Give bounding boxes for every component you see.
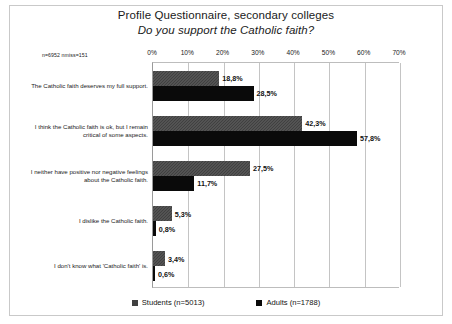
bar-adults: 0,6% — [153, 266, 155, 281]
bar-group: I don't know what 'Catholic faith' is.3,… — [153, 244, 399, 289]
bar-group: The Catholic faith deserves my full supp… — [153, 63, 399, 108]
bar-value-label: 57,8% — [360, 134, 380, 143]
category-label: I neither have positive nor negative fee… — [30, 168, 153, 184]
bar-group: I dislike the Catholic faith.5,3%0,8% — [153, 199, 399, 244]
x-axis-tick-30pct: 30% — [251, 49, 264, 56]
bar-value-label: 27,5% — [253, 164, 273, 173]
bar-group: I think the Catholic faith is ok, but I … — [153, 108, 399, 153]
bar-value-label: 18,8% — [222, 74, 242, 83]
bar-value-label: 5,3% — [175, 209, 191, 218]
chart-title: Profile Questionnaire, secondary college… — [0, 8, 452, 38]
bar-group: I neither have positive nor negative fee… — [153, 153, 399, 198]
x-axis-tick-0pct: 0% — [147, 49, 157, 56]
category-label: The Catholic faith deserves my full supp… — [30, 81, 153, 89]
x-axis-tick-70pct: 70% — [392, 49, 405, 56]
bar-value-label: 0,6% — [158, 269, 174, 278]
bar-value-label: 11,7% — [197, 179, 217, 188]
category-label: I don't know what 'Catholic faith' is. — [30, 262, 153, 270]
x-axis-tick-20pct: 20% — [216, 49, 229, 56]
legend-swatch-icon — [256, 300, 262, 306]
bar-value-label: 3,4% — [168, 254, 184, 263]
x-axis-tick-10pct: 10% — [181, 49, 194, 56]
bar-adults: 57,8% — [153, 131, 357, 146]
plot-area: The Catholic faith deserves my full supp… — [152, 62, 399, 288]
bar-adults: 11,7% — [153, 176, 194, 191]
chart-container: Profile Questionnaire, secondary college… — [0, 0, 452, 324]
chart-title-line1: Profile Questionnaire, secondary college… — [0, 8, 452, 23]
chart-legend: Students (n=5013)Adults (n=1788) — [0, 298, 452, 307]
legend-swatch-icon — [132, 300, 138, 306]
category-label: I think the Catholic faith is ok, but I … — [30, 123, 153, 139]
x-axis-tick-50pct: 50% — [322, 49, 335, 56]
legend-item: Adults (n=1788) — [256, 298, 320, 307]
bar-value-label: 0,8% — [159, 224, 175, 233]
category-label: I dislike the Catholic faith. — [30, 217, 153, 225]
bar-students: 42,3% — [153, 116, 302, 131]
sample-size-note: n=6952 nmiss=151 — [42, 52, 88, 58]
bar-adults: 28,5% — [153, 86, 254, 101]
x-axis-tick-40pct: 40% — [287, 49, 300, 56]
chart-subtitle: Do you support the Catholic faith? — [0, 23, 452, 38]
bar-students: 5,3% — [153, 206, 172, 221]
bar-adults: 0,8% — [153, 221, 156, 236]
bar-students: 3,4% — [153, 251, 165, 266]
bar-students: 27,5% — [153, 161, 250, 176]
x-axis-tick-60pct: 60% — [357, 49, 370, 56]
bar-students: 18,8% — [153, 71, 219, 86]
x-axis-tick-labels: 0%10%20%30%40%50%60%70% — [152, 49, 399, 61]
legend-item: Students (n=5013) — [132, 298, 205, 307]
bar-value-label: 42,3% — [305, 119, 325, 128]
bar-value-label: 28,5% — [257, 89, 277, 98]
legend-label: Students (n=5013) — [142, 298, 205, 307]
legend-label: Adults (n=1788) — [266, 298, 320, 307]
